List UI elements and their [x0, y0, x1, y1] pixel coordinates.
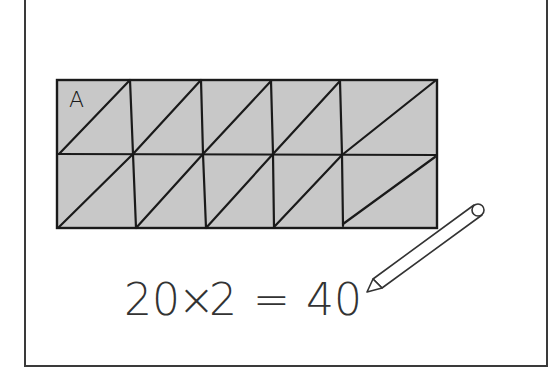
- equation-right: 2: [209, 278, 237, 322]
- equation-result: 40: [306, 278, 362, 322]
- equation-left: 20: [124, 278, 180, 322]
- label-a: A: [69, 87, 84, 112]
- equation-equals: =: [253, 278, 290, 322]
- triangle-grid: [57, 80, 437, 228]
